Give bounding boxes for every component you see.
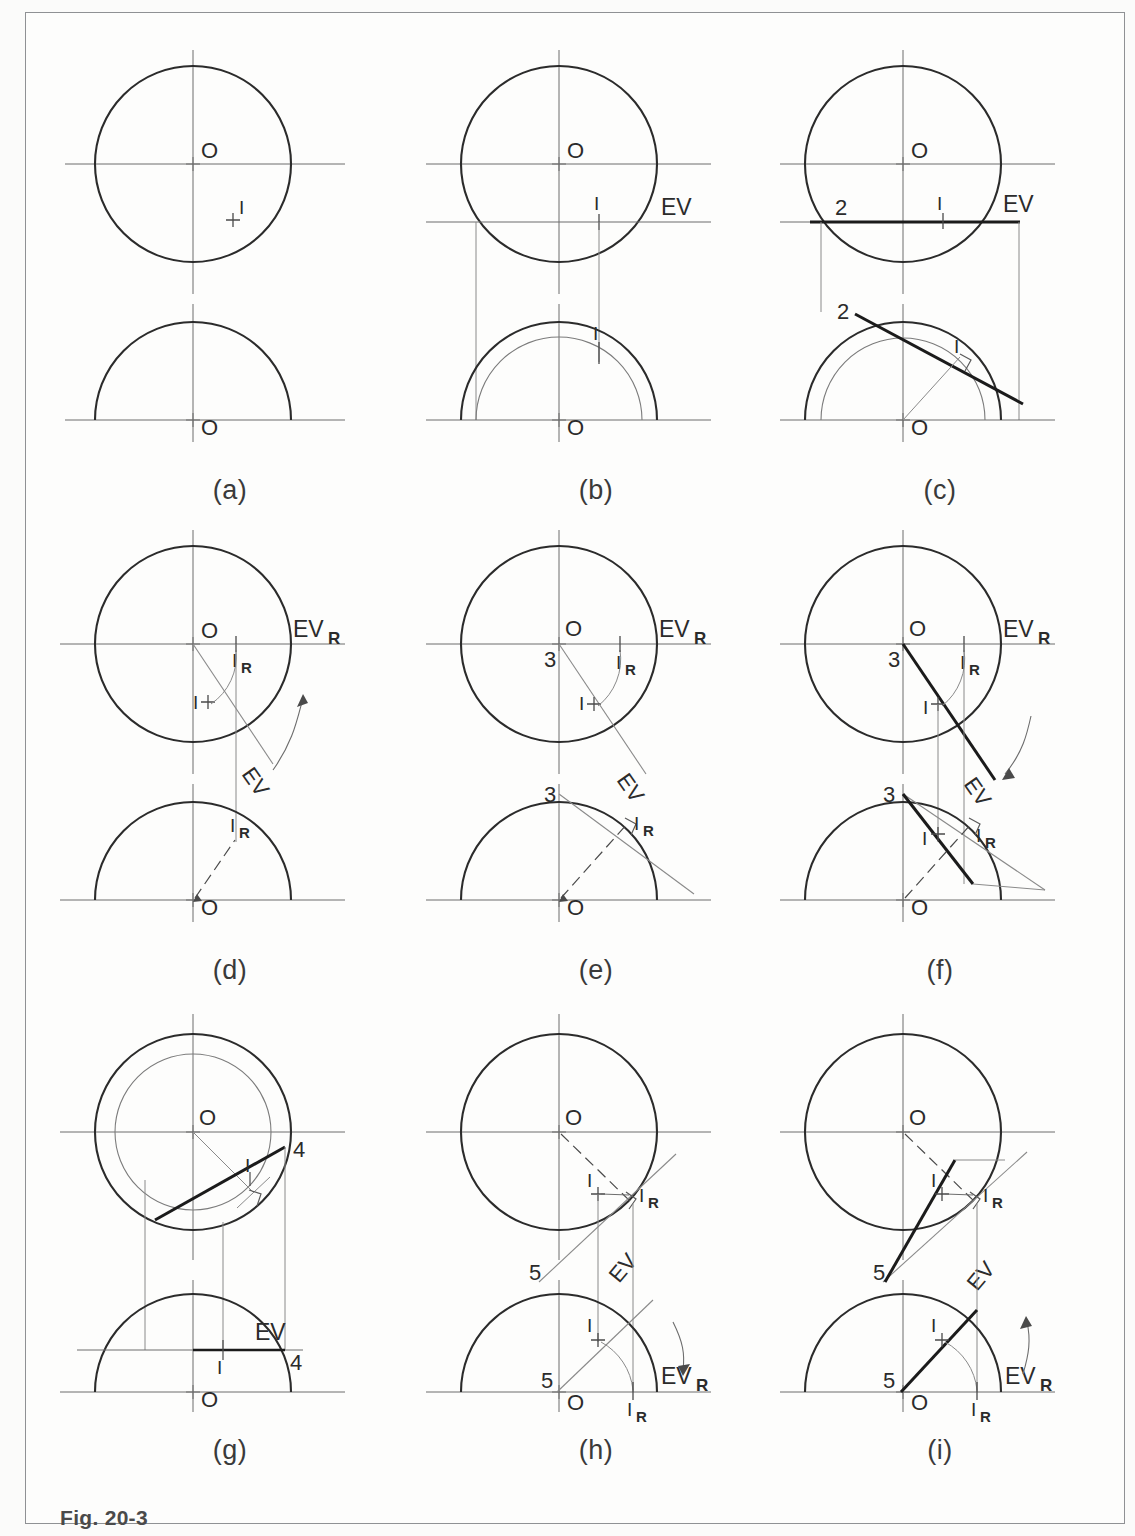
svg-text:O: O	[565, 616, 582, 641]
svg-text:O: O	[201, 415, 218, 440]
svg-text:EV: EV	[612, 769, 649, 808]
svg-text:EV: EV	[1003, 191, 1034, 217]
svg-text:EV: EV	[293, 616, 324, 642]
svg-text:I: I	[593, 323, 598, 344]
svg-text:EV: EV	[659, 616, 690, 642]
svg-text:I: I	[923, 697, 928, 718]
svg-text:I: I	[245, 1155, 250, 1176]
svg-text:5: 5	[541, 1368, 553, 1393]
svg-text:EV: EV	[962, 1256, 1000, 1295]
svg-text:EV: EV	[1005, 1363, 1036, 1389]
svg-text:R: R	[648, 1194, 659, 1211]
svg-text:O: O	[911, 415, 928, 440]
svg-text:R: R	[328, 629, 340, 648]
svg-text:I: I	[954, 336, 959, 357]
svg-text:5: 5	[873, 1260, 885, 1285]
panel-c: O EV 2 I O 2	[755, 32, 1125, 512]
panel-h: O 5 I IR EV O 5	[411, 992, 781, 1472]
svg-text:4: 4	[293, 1137, 305, 1162]
svg-text:R: R	[969, 661, 980, 678]
svg-text:O: O	[201, 1387, 218, 1412]
panel-caption-g: (g)	[45, 1435, 415, 1466]
panel-caption-a: (a)	[45, 475, 415, 506]
svg-text:O: O	[565, 1105, 582, 1130]
panel-g: O 4 I O	[45, 992, 415, 1472]
svg-text:R: R	[1038, 629, 1050, 648]
panel-caption-b: (b)	[411, 475, 781, 506]
svg-text:5: 5	[529, 1260, 541, 1285]
svg-text:R: R	[239, 824, 250, 841]
svg-text:R: R	[643, 822, 654, 839]
svg-text:O: O	[567, 415, 584, 440]
svg-text:O: O	[909, 1105, 926, 1130]
svg-text:3: 3	[883, 782, 895, 807]
panel-f: O 3 EVR EV I IR O	[755, 512, 1125, 992]
figure-caption-label: Fig. 20-3	[60, 1506, 148, 1529]
svg-text:I: I	[931, 1315, 936, 1336]
svg-text:I: I	[937, 193, 942, 214]
svg-text:2: 2	[837, 299, 849, 324]
svg-text:R: R	[1040, 1376, 1052, 1395]
svg-text:R: R	[980, 1408, 991, 1425]
svg-text:3: 3	[888, 647, 900, 672]
svg-text:O: O	[567, 1390, 584, 1415]
svg-text:O: O	[909, 616, 926, 641]
svg-text:EV: EV	[661, 194, 692, 220]
svg-text:3: 3	[544, 782, 556, 807]
svg-text:R: R	[625, 661, 636, 678]
panel-caption-h: (h)	[411, 1435, 781, 1466]
svg-text:I: I	[594, 193, 599, 214]
svg-text:O: O	[911, 895, 928, 920]
svg-text:O: O	[911, 1390, 928, 1415]
svg-text:3: 3	[544, 647, 556, 672]
svg-text:I: I	[922, 828, 927, 849]
svg-text:I: I	[634, 813, 639, 834]
panel-caption-i: (i)	[755, 1435, 1125, 1466]
svg-text:EV: EV	[255, 1319, 286, 1345]
svg-text:I: I	[616, 652, 621, 673]
svg-text:I: I	[587, 1315, 592, 1336]
svg-text:I: I	[983, 1185, 988, 1206]
svg-text:2: 2	[835, 195, 847, 220]
figure-caption: Fig. 20-3	[60, 1506, 148, 1530]
panel-e: O 3 EVR EV I IR O 3	[411, 512, 781, 992]
panel-a: I O O (a)	[45, 32, 415, 512]
panel-b: O EV I O I (b)	[411, 32, 781, 512]
svg-text:R: R	[696, 1376, 708, 1395]
panel-i: O 5 I IR EV O 5	[755, 992, 1125, 1472]
svg-text:EV: EV	[1003, 616, 1034, 642]
svg-text:EV: EV	[604, 1248, 642, 1287]
svg-text:EV: EV	[959, 773, 996, 812]
svg-text:I: I	[971, 1399, 976, 1420]
svg-text:5: 5	[883, 1368, 895, 1393]
svg-text:I: I	[579, 693, 584, 714]
svg-text:R: R	[694, 629, 706, 648]
figure-page: I O O (a) O EV	[0, 0, 1135, 1536]
svg-text:I: I	[639, 1185, 644, 1206]
svg-text:R: R	[992, 1194, 1003, 1211]
svg-text:O: O	[911, 138, 928, 163]
svg-text:I: I	[230, 815, 235, 836]
panel-grid: I O O (a) O EV	[25, 12, 1125, 1442]
panel-caption-c: (c)	[755, 475, 1125, 506]
svg-text:I: I	[217, 1357, 222, 1378]
svg-text:O: O	[201, 895, 218, 920]
svg-text:I: I	[627, 1399, 632, 1420]
panel-caption-d: (d)	[45, 955, 415, 986]
svg-text:R: R	[241, 659, 252, 676]
panel-d: O EVR EV I IR	[45, 512, 415, 992]
svg-text:I: I	[931, 1170, 936, 1191]
svg-text:I: I	[239, 197, 244, 218]
svg-text:I: I	[976, 825, 981, 846]
svg-text:O: O	[201, 138, 218, 163]
svg-text:I: I	[193, 692, 198, 713]
svg-text:O: O	[567, 895, 584, 920]
panel-caption-e: (e)	[411, 955, 781, 986]
panel-caption-f: (f)	[755, 955, 1125, 986]
svg-text:4: 4	[290, 1350, 302, 1375]
svg-text:O: O	[199, 1105, 216, 1130]
svg-text:O: O	[567, 138, 584, 163]
svg-text:R: R	[636, 1408, 647, 1425]
svg-text:R: R	[985, 834, 996, 851]
svg-text:O: O	[201, 618, 218, 643]
